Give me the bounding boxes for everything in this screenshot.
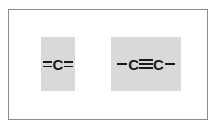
bond-line	[139, 63, 153, 65]
bond-line	[139, 67, 153, 69]
bond-line	[117, 63, 127, 65]
figure-frame: C C	[8, 9, 208, 120]
bond-line	[64, 61, 73, 63]
atom-label-carbon-left: C	[128, 57, 139, 72]
bond-line	[43, 61, 52, 63]
figure-root: C C	[0, 0, 221, 135]
bond-line	[43, 66, 52, 68]
bond-line	[165, 63, 175, 65]
double-bond-left-icon	[43, 61, 52, 67]
structure-allene-center: C	[41, 37, 75, 91]
structure-panel-alkyne: C C	[111, 37, 181, 91]
bond-line	[64, 66, 73, 68]
single-bond-terminal-left-icon	[117, 63, 127, 65]
structure-alkyne: C C	[111, 37, 181, 91]
triple-bond-icon	[139, 59, 153, 69]
single-bond-terminal-right-icon	[165, 63, 175, 65]
bond-line	[139, 59, 153, 61]
double-bond-right-icon	[64, 61, 73, 67]
atom-label-carbon-right: C	[153, 57, 164, 72]
structure-panel-allene-center: C	[41, 37, 75, 91]
atom-label-carbon: C	[53, 57, 64, 72]
structures-row: C C	[9, 10, 207, 119]
